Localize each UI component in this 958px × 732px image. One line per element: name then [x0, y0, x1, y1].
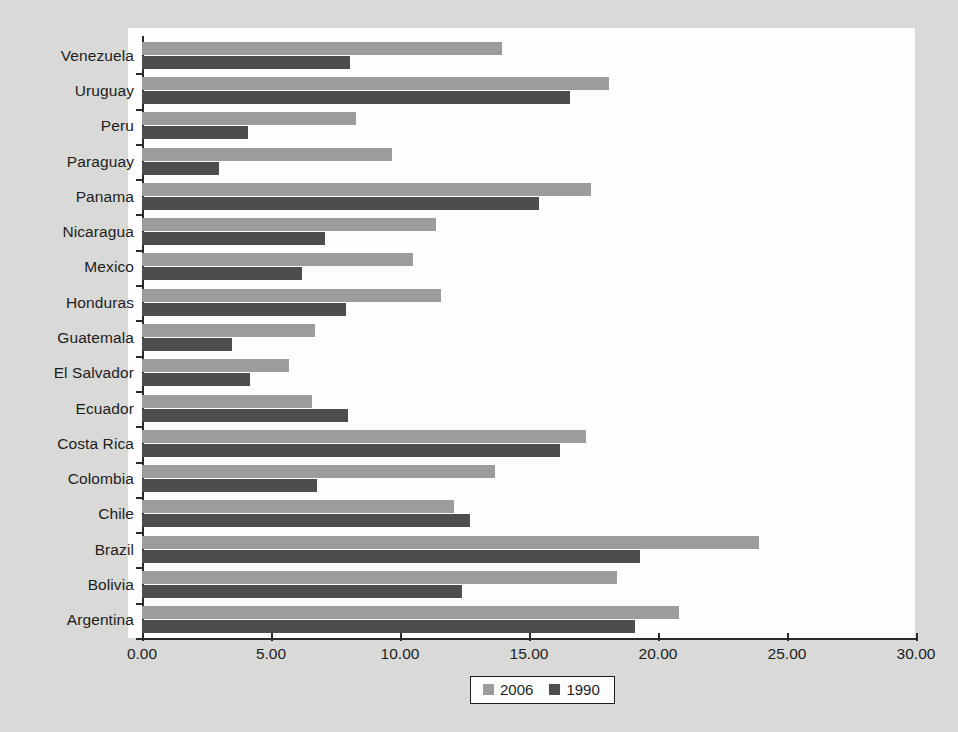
legend-swatch-icon — [483, 684, 494, 695]
bars-layer — [18, 14, 958, 732]
chart-legend: 20061990 — [470, 676, 615, 704]
bar-1990-brazil — [142, 550, 640, 563]
bar-2006-peru — [142, 112, 356, 125]
bar-1990-nicaragua — [142, 232, 325, 245]
bar-1990-venezuela — [142, 56, 350, 69]
bar-1990-bolivia — [142, 585, 462, 598]
bar-2006-guatemala — [142, 324, 315, 337]
bar-1990-uruguay — [142, 91, 570, 104]
bar-2006-costa-rica — [142, 430, 586, 443]
scanned-page: VenezuelaUruguayPeruParaguayPanamaNicara… — [0, 0, 958, 732]
bar-2006-colombia — [142, 465, 495, 478]
bar-2006-ecuador — [142, 395, 312, 408]
bar-1990-costa-rica — [142, 444, 560, 457]
bar-2006-el-salvador — [142, 359, 289, 372]
bar-2006-paraguay — [142, 148, 392, 161]
bar-1990-chile — [142, 514, 470, 527]
bar-2006-chile — [142, 500, 454, 513]
legend-label: 1990 — [566, 681, 599, 698]
legend-label: 2006 — [500, 681, 533, 698]
bar-2006-bolivia — [142, 571, 617, 584]
bar-1990-colombia — [142, 479, 317, 492]
bar-1990-panama — [142, 197, 539, 210]
bar-2006-panama — [142, 183, 591, 196]
legend-swatch-icon — [549, 684, 560, 695]
bar-1990-argentina — [142, 620, 635, 633]
legend-item-2006: 2006 — [483, 681, 533, 698]
bar-2006-nicaragua — [142, 218, 436, 231]
legend-item-1990: 1990 — [549, 681, 599, 698]
bar-1990-peru — [142, 126, 248, 139]
chart-figure: VenezuelaUruguayPeruParaguayPanamaNicara… — [18, 14, 923, 704]
bar-1990-mexico — [142, 267, 302, 280]
bar-1990-ecuador — [142, 409, 348, 422]
bar-2006-mexico — [142, 253, 413, 266]
bar-2006-brazil — [142, 536, 759, 549]
bar-2006-venezuela — [142, 42, 502, 55]
bar-1990-paraguay — [142, 162, 219, 175]
bar-1990-el-salvador — [142, 373, 250, 386]
bar-2006-uruguay — [142, 77, 609, 90]
bar-2006-honduras — [142, 289, 441, 302]
bar-1990-honduras — [142, 303, 346, 316]
bar-1990-guatemala — [142, 338, 232, 351]
bar-2006-argentina — [142, 606, 679, 619]
